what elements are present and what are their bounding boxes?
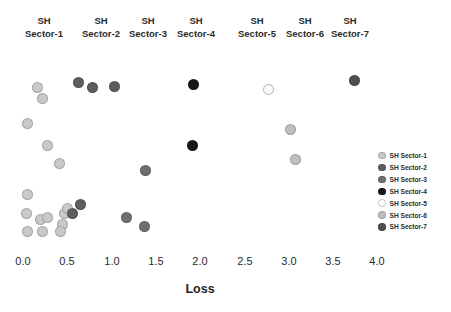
data-point [22,189,33,200]
data-point [285,124,296,135]
legend-swatch-icon [378,152,386,160]
legend: SH Sector-1SH Sector-2SH Sector-3SH Sect… [378,150,451,233]
legend-item-2[interactable]: SH Sector-2 [378,162,451,173]
sector-header-name: Sector-4 [166,27,226,40]
legend-item-4[interactable]: SH Sector-4 [378,186,451,197]
data-point [37,93,48,104]
sector-header-prefix: SH [320,14,380,27]
x-tick-label: 3.0 [274,255,304,267]
data-point [290,154,301,165]
legend-item-1[interactable]: SH Sector-1 [378,150,451,161]
sector-header-prefix: SH [14,14,74,27]
x-axis-label: Loss [0,282,400,296]
legend-swatch-icon [378,223,386,231]
legend-label: SH Sector-4 [390,188,427,195]
sector-header-row: SHSector-1SHSector-2SHSector-3SHSector-4… [0,14,451,46]
legend-swatch-icon [378,199,386,207]
data-point [140,165,151,176]
sector-header-name: Sector-1 [14,27,74,40]
legend-item-7[interactable]: SH Sector-7 [378,221,451,232]
data-point [139,221,150,232]
plot-area [0,46,372,252]
data-point [22,118,33,129]
data-point [54,158,65,169]
sector-header-name: Sector-7 [320,27,380,40]
legend-item-5[interactable]: SH Sector-5 [378,198,451,209]
scatter-chart: SHSector-1SHSector-2SHSector-3SHSector-4… [0,0,451,312]
sector-header-prefix: SH [166,14,226,27]
x-tick-label: 0.0 [8,255,38,267]
data-point [42,212,53,223]
legend-label: SH Sector-6 [390,212,427,219]
data-point [55,226,66,237]
data-point [109,81,120,92]
data-point [22,226,33,237]
legend-label: SH Sector-2 [390,164,427,171]
x-axis-ticks: 0.00.51.01.52.02.53.03.54.0 [0,255,451,271]
legend-item-6[interactable]: SH Sector-6 [378,209,451,220]
x-tick-label: 4.0 [362,255,392,267]
legend-label: SH Sector-3 [390,176,427,183]
data-point [73,77,84,88]
legend-label: SH Sector-1 [390,152,427,159]
data-point [67,208,78,219]
data-point [187,140,198,151]
data-point [75,199,86,210]
data-point [87,82,98,93]
data-point [21,208,32,219]
x-tick-label: 2.5 [230,255,260,267]
legend-swatch-icon [378,211,386,219]
faint-title [120,0,335,9]
legend-swatch-icon [378,164,386,172]
x-tick-label: 1.0 [97,255,127,267]
sector-header-7: SHSector-7 [320,14,380,40]
data-point [37,226,48,237]
legend-item-3[interactable]: SH Sector-3 [378,174,451,185]
legend-swatch-icon [378,176,386,184]
sector-header-1: SHSector-1 [14,14,74,40]
legend-label: SH Sector-7 [390,223,427,230]
data-point [188,79,199,90]
legend-swatch-icon [378,188,386,196]
x-tick-label: 2.0 [185,255,215,267]
data-point [32,82,43,93]
sector-header-4: SHSector-4 [166,14,226,40]
x-tick-label: 3.5 [318,255,348,267]
legend-label: SH Sector-5 [390,200,427,207]
x-tick-label: 0.5 [52,255,82,267]
data-point [42,140,53,151]
data-point [121,212,132,223]
data-point [349,75,360,86]
data-point [263,84,274,95]
x-tick-label: 1.5 [141,255,171,267]
